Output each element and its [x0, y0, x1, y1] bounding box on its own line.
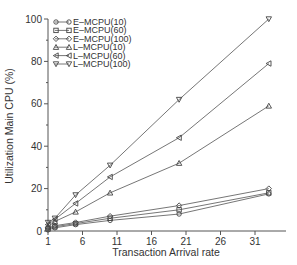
series-l-mcpu-60: [45, 61, 271, 228]
line-chart: 020406080100161116212631 E–MCPU(10)E–MCP…: [0, 0, 297, 265]
legend-item: L–MCPU(100): [53, 59, 130, 69]
triangle-up-marker-icon: [266, 103, 271, 108]
y-tick-label: 40: [31, 141, 43, 152]
x-tick-label: 6: [80, 236, 86, 247]
x-tick-label: 1: [45, 236, 51, 247]
y-tick-label: 60: [31, 98, 43, 109]
y-tick-label: 100: [25, 14, 42, 25]
legend: E–MCPU(10)E–MCPU(60)E–MCPU(100)L–MCPU(10…: [53, 17, 131, 69]
y-axis-title: Utilization Main CPU (%): [3, 68, 15, 184]
x-tick-label: 31: [249, 236, 261, 247]
series-e-mcpu-60: [46, 191, 271, 231]
y-tick-label: 20: [31, 183, 43, 194]
y-tick-label: 0: [36, 226, 42, 237]
legend-label: L–MCPU(100): [73, 59, 131, 69]
series-l-mcpu-10: [45, 103, 271, 229]
x-axis-title: Transaction Arrival rate: [112, 246, 220, 258]
series-line: [48, 64, 269, 225]
series-line: [48, 193, 269, 229]
series-line: [48, 189, 269, 228]
y-tick-label: 80: [31, 56, 43, 67]
